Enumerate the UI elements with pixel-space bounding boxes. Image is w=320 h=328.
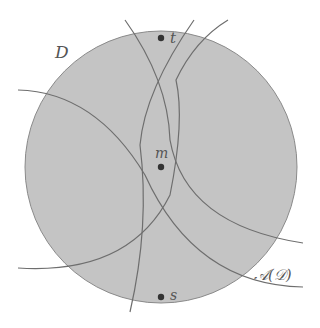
label-s: s xyxy=(170,287,177,303)
label-arrangement: 𝒜(𝒟) xyxy=(254,266,292,284)
arrangement-diagram: D t m s 𝒜(𝒟) xyxy=(0,0,320,328)
point-m xyxy=(158,164,164,170)
point-t xyxy=(158,35,164,41)
label-m: m xyxy=(155,145,168,161)
label-t: t xyxy=(170,29,177,47)
point-s xyxy=(158,294,164,300)
label-D: D xyxy=(54,42,69,62)
